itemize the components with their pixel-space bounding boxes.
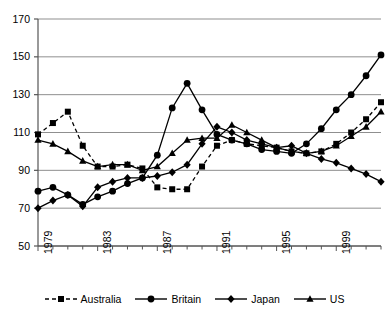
series-britain [35, 52, 385, 208]
legend-label: Japan [251, 294, 280, 305]
data-point-circle [363, 72, 370, 79]
legend-item-us: US [293, 293, 345, 305]
x-tick-label: 1999 [341, 231, 351, 254]
data-point-diamond [318, 155, 325, 163]
data-point-circle [154, 152, 161, 159]
data-point-diamond [228, 129, 235, 137]
data-point-square [65, 109, 71, 115]
chart-canvas [0, 0, 388, 314]
data-point-circle [184, 80, 191, 87]
data-point-diamond [154, 172, 161, 180]
legend-symbol-triangle [293, 293, 327, 305]
data-point-circle [303, 140, 310, 147]
data-point-diamond [49, 197, 56, 205]
legend-label: Australia [81, 294, 122, 305]
data-point-diamond [109, 178, 116, 186]
data-point-square [58, 296, 64, 302]
data-point-square [80, 143, 86, 149]
series-line-britain [38, 55, 381, 204]
data-point-square [50, 120, 56, 126]
data-point-triangle [64, 148, 71, 155]
data-point-diamond [228, 295, 235, 303]
data-point-circle [318, 125, 325, 132]
chart-legend: AustraliaBritainJapanUS [0, 289, 388, 309]
data-point-square [378, 99, 384, 105]
data-point-square [214, 143, 220, 149]
legend-symbol-diamond [214, 293, 248, 305]
x-tick-label: 1987 [162, 231, 172, 254]
data-point-square [363, 116, 369, 122]
data-point-circle [148, 296, 155, 303]
x-tick-label: 1995 [281, 231, 291, 254]
y-tick-label: 150 [4, 51, 30, 61]
data-point-diamond [34, 204, 41, 212]
series-us [34, 108, 384, 173]
data-point-square [169, 186, 175, 192]
data-point-diamond [348, 164, 355, 172]
legend-label: US [330, 294, 345, 305]
data-point-square [154, 184, 160, 190]
data-point-diamond [377, 178, 384, 186]
y-tick-label: 90 [4, 165, 30, 175]
series-japan [34, 123, 384, 212]
data-point-diamond [124, 174, 131, 182]
line-chart: AustraliaBritainJapanUS 5070901101301501… [0, 0, 388, 314]
data-point-circle [228, 137, 235, 144]
legend-item-australia: Australia [44, 293, 122, 305]
y-tick-label: 110 [4, 127, 30, 137]
data-point-diamond [64, 191, 71, 199]
data-point-diamond [333, 159, 340, 167]
y-tick-label: 50 [4, 241, 30, 251]
data-point-circle [35, 188, 42, 195]
y-tick-label: 130 [4, 89, 30, 99]
data-point-circle [94, 193, 101, 200]
legend-item-britain: Britain [134, 293, 201, 305]
data-point-triangle [79, 157, 86, 164]
series-line-australia [38, 102, 381, 189]
data-point-diamond [362, 170, 369, 178]
data-point-circle [378, 52, 385, 59]
y-tick-label: 70 [4, 203, 30, 213]
data-point-triangle [258, 136, 265, 143]
data-point-triangle [228, 121, 235, 128]
series-line-japan [38, 127, 381, 208]
legend-label: Britain [171, 294, 201, 305]
legend-item-japan: Japan [214, 293, 280, 305]
data-point-circle [169, 105, 176, 112]
data-point-circle [333, 106, 340, 113]
data-point-circle [348, 91, 355, 98]
x-tick-label: 1983 [102, 231, 112, 254]
data-point-square [199, 164, 205, 170]
data-point-triangle [377, 108, 384, 115]
data-point-circle [50, 184, 57, 191]
series-australia [35, 99, 384, 192]
data-point-circle [109, 188, 116, 195]
data-point-circle [199, 106, 206, 113]
legend-symbol-square [44, 293, 78, 305]
y-tick-label: 170 [4, 14, 30, 24]
x-tick-label: 1991 [221, 231, 231, 254]
x-tick-label: 1979 [43, 231, 53, 254]
legend-symbol-circle [134, 293, 168, 305]
data-point-square [184, 186, 190, 192]
data-point-diamond [169, 168, 176, 176]
